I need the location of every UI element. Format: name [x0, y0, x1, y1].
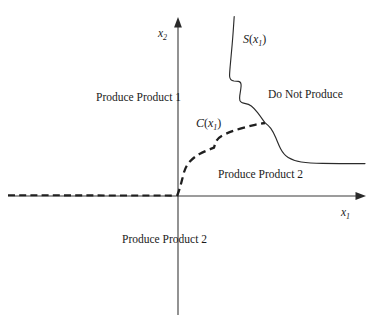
y-axis-arrowhead-icon	[174, 17, 182, 28]
cost-curve-label-close-paren: )	[217, 116, 221, 130]
x-axis	[8, 192, 366, 200]
y-axis-label-subscript: 2	[163, 33, 167, 42]
switching-curve-label-subscript: 1	[258, 39, 262, 48]
switching-curve-label-close-paren: )	[262, 32, 266, 46]
switching-curve-label: S(x1)	[243, 33, 266, 45]
cost-curve-label-base: C	[196, 116, 204, 130]
region-label-produce-product-2-inner: Produce Product 2	[218, 169, 303, 181]
region-label-produce-product-2-lower: Produce Product 2	[122, 234, 207, 246]
cost-curve-dashed	[8, 123, 265, 196]
cost-curve-label: C(x1)	[196, 117, 221, 129]
x-axis-label: x1	[341, 207, 350, 219]
region-label-produce-product-1: Produce Product 1	[96, 92, 181, 104]
x-axis-arrowhead-icon	[356, 192, 367, 200]
production-region-diagram: x2 x1 S(x1) C(x1) Produce Product 1 Do N…	[0, 0, 376, 323]
diagram-canvas	[0, 0, 376, 323]
cost-curve-rising-branch	[177, 123, 265, 196]
y-axis	[174, 17, 182, 315]
x-axis-label-subscript: 1	[346, 212, 350, 221]
cost-curve-label-subscript: 1	[213, 123, 217, 132]
region-label-do-not-produce: Do Not Produce	[268, 89, 343, 101]
y-axis-label: x2	[158, 28, 167, 40]
